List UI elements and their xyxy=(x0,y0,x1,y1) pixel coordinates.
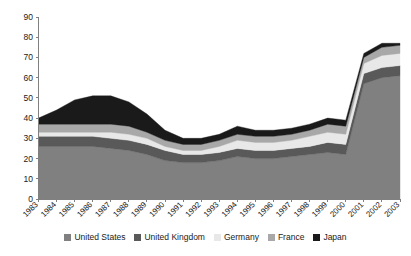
legend-swatch-icon xyxy=(268,234,275,241)
legend-swatch-icon xyxy=(64,234,71,241)
y-tick-label: 30 xyxy=(24,133,34,143)
x-tick-label: 1988 xyxy=(111,200,130,219)
x-tick-label: 2003 xyxy=(382,200,401,219)
y-tick-label: 90 xyxy=(24,12,34,22)
legend-swatch-icon xyxy=(214,234,221,241)
x-tick-label: 1983 xyxy=(21,200,40,219)
y-tick-label: 20 xyxy=(24,154,34,164)
y-tick-label: 60 xyxy=(24,73,34,83)
y-tick-label: 70 xyxy=(24,52,34,62)
y-tick-label: 40 xyxy=(24,113,34,123)
x-tick-label: 2000 xyxy=(328,200,347,219)
legend-label: France xyxy=(278,233,304,242)
x-tick-label: 1990 xyxy=(147,200,166,219)
y-tick-label: 80 xyxy=(24,32,34,42)
legend-item-united-kingdom[interactable]: United Kingdom xyxy=(134,233,204,242)
x-tick-label: 1991 xyxy=(166,200,185,219)
x-tick-label: 1984 xyxy=(39,200,58,219)
x-tick-label: 1992 xyxy=(184,200,203,219)
x-tick-label: 1986 xyxy=(75,200,94,219)
legend-item-japan[interactable]: Japan xyxy=(313,233,346,242)
x-tick-label: 1996 xyxy=(256,200,275,219)
y-axis-tick-labels: 0102030405060708090 xyxy=(24,12,34,204)
legend-label: United Kingdom xyxy=(144,233,204,242)
legend-item-germany[interactable]: Germany xyxy=(214,233,259,242)
y-tick-label: 10 xyxy=(24,174,34,184)
chart-legend: United StatesUnited KingdomGermanyFrance… xyxy=(0,228,411,246)
chart-plot-area: 0102030405060708090 19831984198519861987… xyxy=(0,0,411,256)
legend-item-united-states[interactable]: United States xyxy=(64,233,125,242)
legend-swatch-icon xyxy=(313,234,320,241)
x-axis-tick-labels: 1983198419851986198719881989199019911992… xyxy=(21,200,402,219)
legend-swatch-icon xyxy=(134,234,141,241)
x-tick-label: 1985 xyxy=(57,200,76,219)
legend-label: Japan xyxy=(323,233,346,242)
legend-label: Germany xyxy=(224,233,259,242)
stacked-area-chart: 0102030405060708090 19831984198519861987… xyxy=(0,0,411,256)
x-tick-label: 2002 xyxy=(364,200,383,219)
x-tick-label: 1993 xyxy=(202,200,221,219)
x-tick-label: 1989 xyxy=(129,200,148,219)
x-tick-label: 1998 xyxy=(292,200,311,219)
legend-label: United States xyxy=(74,233,125,242)
x-tick-label: 1999 xyxy=(310,200,329,219)
x-tick-label: 1995 xyxy=(238,200,257,219)
y-tick-label: 50 xyxy=(24,93,34,103)
series-areas xyxy=(39,43,401,199)
legend-item-france[interactable]: France xyxy=(268,233,304,242)
x-tick-label: 1987 xyxy=(93,200,112,219)
x-tick-label: 1997 xyxy=(274,200,293,219)
x-tick-label: 1994 xyxy=(220,200,239,219)
x-tick-label: 2001 xyxy=(346,200,365,219)
